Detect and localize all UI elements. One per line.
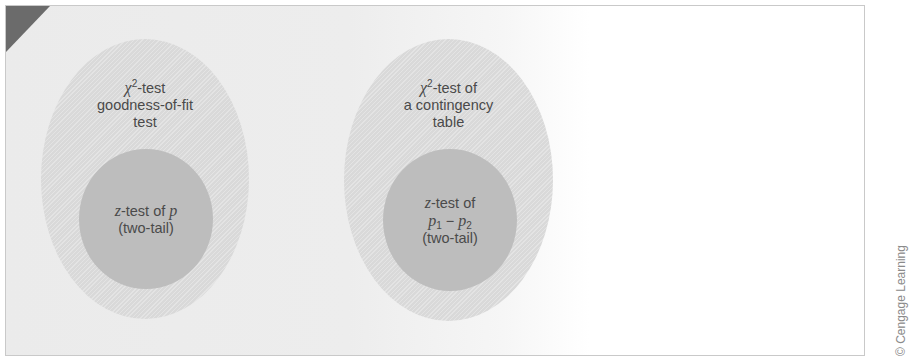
chi-symbol: χ: [125, 79, 132, 96]
diagram-frame: χ2-test goodness-of-fit test z-test of p…: [5, 5, 865, 356]
label-z-test-of-p1-minus-p2: z-test of p1 − p2 (two-tail): [383, 194, 517, 247]
label-z-test-of-p: z-test of p (two-tail): [79, 202, 213, 237]
label-chi-square-goodness-of-fit: χ2-test goodness-of-fit test: [41, 79, 249, 131]
label-chi-square-contingency-table: χ2-test of a contingency table: [344, 79, 553, 131]
corner-triangle-decoration: [6, 6, 50, 52]
copyright-notice: © Cengage Learning: [894, 245, 908, 356]
